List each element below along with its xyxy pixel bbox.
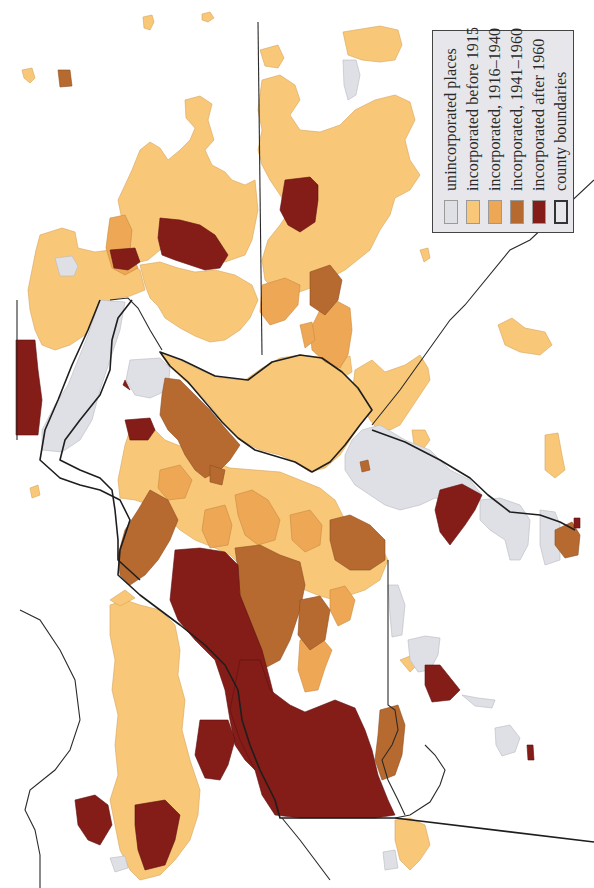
swatch-before-1915 xyxy=(466,200,480,224)
legend-label: county boundaries xyxy=(552,72,570,191)
legend-label: unincorporated places xyxy=(442,48,460,191)
swatch-county-boundaries xyxy=(554,200,568,224)
legend-label: incorporated after 1960 xyxy=(530,39,548,191)
legend-item-unincorporated: unincorporated places xyxy=(441,48,461,224)
legend-rotated-content: unincorporated places incorporated befor… xyxy=(433,31,575,234)
map-legend: unincorporated places incorporated befor… xyxy=(432,30,574,233)
legend-item-county-boundaries: county boundaries xyxy=(551,72,571,224)
swatch-1916-1940 xyxy=(488,200,502,224)
legend-label: incorporated before 1915 xyxy=(464,27,482,191)
swatch-unincorporated xyxy=(444,200,458,224)
legend-label: incorporated, 1916–1940 xyxy=(486,28,504,191)
legend-item-1916-1940: incorporated, 1916–1940 xyxy=(485,28,505,224)
swatch-1941-1960 xyxy=(510,200,524,224)
legend-label: incorporated, 1941–1960 xyxy=(508,28,526,191)
legend-item-1941-1960: incorporated, 1941–1960 xyxy=(507,28,527,224)
legend-item-before-1915: incorporated before 1915 xyxy=(463,27,483,224)
legend-item-after-1960: incorporated after 1960 xyxy=(529,39,549,224)
swatch-after-1960 xyxy=(532,200,546,224)
